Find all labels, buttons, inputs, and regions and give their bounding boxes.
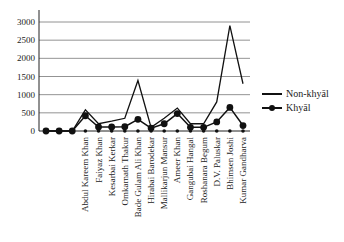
data-point [123,129,127,133]
data-point [202,129,206,133]
x-tick-label: Roshanara Begum [199,137,209,203]
data-point [174,110,181,117]
data-point [44,129,48,133]
data-point [136,129,140,133]
x-tick-label: Kesarbai Kerkar [107,137,117,196]
data-point [82,112,89,119]
legend-label: Khyāl [286,101,310,115]
x-tick-label: Mallikarjun Mansur [159,137,169,209]
data-point [97,129,101,133]
data-point [135,116,142,123]
data-point [213,119,220,126]
legend-item-non-khyal: Non-khyāl [262,87,329,101]
y-tick-label: 0 [31,126,36,136]
x-tick-label: D.V. Paluskar [212,137,222,187]
data-point [161,120,168,127]
x-tick-label: Ameer Khan [172,137,182,184]
y-axis: 050010001500200025003000 [17,10,250,136]
line-swatch-icon [262,89,282,99]
data-point [121,123,128,130]
y-tick-label: 2000 [17,53,36,63]
x-tick-label: Bhimsen Joshi [225,137,235,190]
legend-item-khyal: Khyāl [262,101,329,115]
gridlines [39,22,250,113]
y-tick-label: 3000 [17,17,36,27]
x-tick-label: Kumar Gandharva [238,137,248,204]
data-point [226,104,233,111]
y-tick-label: 2500 [17,35,36,45]
legend: Non-khyāl Khyāl [262,87,329,115]
dot-line-swatch-icon [262,103,282,113]
data-point [176,129,180,133]
legend-label: Non-khyāl [286,87,329,101]
data-point [189,129,193,133]
line-chart: 050010001500200025003000 Abdul Kareem Kh… [0,0,344,242]
data-point [57,129,61,133]
x-tick-label: Faiyaz Khan [94,137,104,183]
series-lines [43,26,247,135]
x-tick-label: Gangubai Hangal [185,137,195,201]
y-tick-label: 1000 [17,90,36,100]
series-line [46,26,243,131]
x-tick-label: Omkarnath Thakur [120,137,130,206]
data-point [84,129,88,133]
data-point [110,129,114,133]
y-tick-label: 1500 [17,72,36,82]
data-point [162,129,166,133]
data-point [241,129,245,133]
data-point [228,129,232,133]
x-axis-labels: Abdul Kareem KhanFaiyaz KhanKesarbai Ker… [80,137,248,218]
data-point [215,129,219,133]
x-tick-label: Abdul Kareem Khan [80,137,90,212]
data-point [149,129,153,133]
x-tick-label: Hirabai Barodekar [146,137,156,204]
data-point [240,122,247,129]
x-tick-label: Bade Gulam Ali Khan [133,137,143,218]
data-point [70,129,74,133]
series-line [46,107,243,131]
y-tick-label: 500 [22,108,36,118]
